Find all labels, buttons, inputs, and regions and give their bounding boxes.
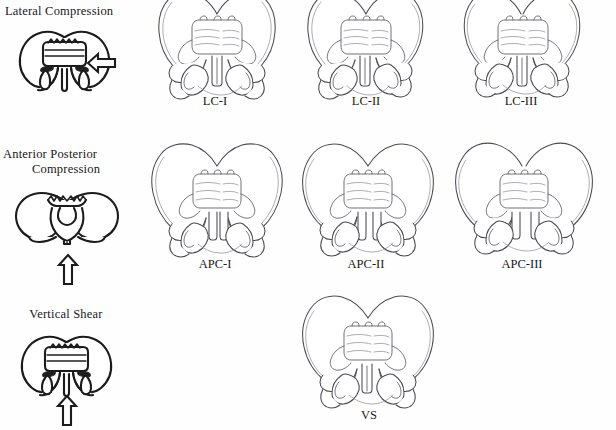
grade-caption-lc-2: LC-II (352, 94, 380, 108)
mechanism-label-apc-line1: Anterior Posterior (3, 147, 97, 162)
pelvis-lc-1 (143, 0, 291, 108)
pelvis-lc-2 (292, 0, 440, 108)
force-arrow-lateral-compression (86, 52, 118, 74)
grade-caption-vs: VS (361, 408, 377, 422)
mechanism-label-lateral-compression: Lateral Compression (5, 4, 113, 19)
grade-caption-lc-1: LC-I (203, 94, 227, 108)
pelvis-lc-3 (449, 0, 597, 108)
pelvis-apc-1 (143, 136, 291, 261)
pelvic-fracture-classification-figure: Lateral Compression (0, 0, 616, 430)
pelvis-apc-2 (294, 136, 442, 261)
pelvis-schematic-open-book-icon (12, 186, 122, 248)
pelvis-apc-3 (450, 136, 598, 261)
pelvis-schematic-vertical-shear-icon (14, 330, 119, 398)
grade-caption-apc-2: APC-II (348, 257, 385, 271)
grade-caption-apc-1: APC-I (199, 257, 232, 271)
grade-caption-apc-3: APC-III (502, 257, 543, 271)
mechanism-label-vertical-shear: Vertical Shear (3, 307, 129, 322)
grade-caption-lc-3: LC-III (505, 94, 538, 108)
mechanism-label-apc-line2: Compression (3, 162, 129, 177)
force-arrow-vertical-shear (55, 394, 79, 428)
pelvis-vs (294, 288, 442, 413)
force-arrow-apc (56, 253, 80, 287)
